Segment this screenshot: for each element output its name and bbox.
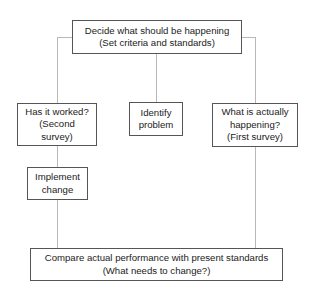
connector-right-to-bottom [255,147,256,248]
connector-left-to-implement [57,146,58,167]
connector-implement-to-bottom [57,200,58,248]
connector-top-to-left-horizontal [57,37,72,38]
connector-top-to-left-vertical [57,37,58,103]
node-label-line: (Second [39,118,75,131]
node-what-is-actually-happening: What is actually happening? (First surve… [212,103,298,147]
connector-top-to-right-horizontal [242,37,256,38]
node-has-it-worked: Has it worked? (Second survey) [17,103,97,146]
connector-top-to-right-vertical [255,37,256,103]
node-label-line: Decide what should be happening [85,25,230,38]
node-label-line: survey) [41,131,72,144]
node-label-line: (What needs to change?) [103,265,211,278]
connector-top-to-middle [156,54,157,102]
node-label-line: Implement [35,171,80,184]
node-label-line: Has it worked? [25,106,88,119]
node-label-line: (First survey) [227,131,283,144]
node-implement-change: Implement change [27,167,88,200]
node-label-line: Compare actual performance with present … [45,252,268,265]
node-label-line: (Set criteria and standards) [99,37,215,50]
node-identify-problem: Identify problem [129,102,183,136]
node-decide-what-should-be-happening: Decide what should be happening (Set cri… [72,20,242,54]
node-label-line: change [42,184,73,197]
node-label-line: problem [139,119,174,132]
node-label-line: Identify [141,107,172,120]
node-label-line: What is actually [221,106,288,119]
node-label-line: happening? [230,119,280,132]
node-compare-actual-performance: Compare actual performance with present … [30,248,283,281]
